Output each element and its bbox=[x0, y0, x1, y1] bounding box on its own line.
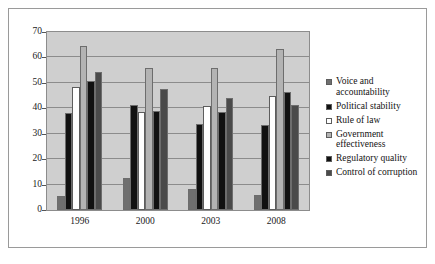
chart-legend: Voice and accountabilityPolitical stabil… bbox=[326, 76, 435, 181]
bar bbox=[65, 113, 72, 210]
y-axis-tick-mark bbox=[42, 32, 46, 33]
bar bbox=[261, 125, 268, 210]
legend-label: Government effectiveness bbox=[336, 129, 385, 150]
bar bbox=[57, 196, 64, 210]
bar bbox=[196, 124, 203, 210]
bar bbox=[276, 49, 283, 210]
bar-group bbox=[123, 32, 168, 210]
x-axis-tick-label: 2000 bbox=[123, 216, 167, 226]
y-axis-tick-label: 70 bbox=[16, 27, 42, 37]
bar bbox=[145, 68, 152, 210]
x-axis-tick-label: 2008 bbox=[254, 216, 298, 226]
bar-group bbox=[57, 32, 102, 210]
y-axis-tick-mark bbox=[42, 159, 46, 160]
legend-swatch-icon bbox=[326, 156, 332, 162]
bar bbox=[291, 105, 298, 210]
legend-item[interactable]: Control of corruption bbox=[326, 167, 435, 178]
legend-label: Control of corruption bbox=[336, 167, 417, 178]
y-axis-tick-label: 40 bbox=[16, 104, 42, 114]
legend-item[interactable]: Regulatory quality bbox=[326, 153, 435, 164]
bar bbox=[188, 189, 195, 210]
legend-swatch-icon bbox=[326, 118, 332, 124]
y-axis-tick-mark bbox=[42, 57, 46, 58]
bar bbox=[138, 112, 145, 210]
y-axis-tick-label: 10 bbox=[16, 180, 42, 190]
bar bbox=[284, 92, 291, 210]
bar bbox=[72, 87, 79, 210]
chart-page: 010203040506070 1996200020032008 Voice a… bbox=[0, 0, 435, 264]
bar bbox=[160, 89, 167, 210]
x-axis-tick-label: 1996 bbox=[58, 216, 102, 226]
legend-swatch-icon bbox=[326, 170, 332, 176]
legend-label: Political stability bbox=[336, 101, 401, 112]
legend-swatch-icon bbox=[326, 79, 332, 85]
bar bbox=[95, 72, 102, 210]
legend-item[interactable]: Voice and accountability bbox=[326, 76, 435, 97]
legend-item[interactable]: Government effectiveness bbox=[326, 129, 435, 150]
bar bbox=[218, 112, 225, 210]
y-axis-tick-label: 30 bbox=[16, 129, 42, 139]
y-axis-tick-mark bbox=[42, 134, 46, 135]
y-axis-tick-label: 50 bbox=[16, 78, 42, 88]
x-axis-tick-label: 2003 bbox=[189, 216, 233, 226]
bar-series-container bbox=[47, 32, 309, 210]
legend-label: Rule of law bbox=[336, 115, 380, 126]
y-axis-tick-mark bbox=[42, 185, 46, 186]
bar bbox=[211, 68, 218, 210]
bar bbox=[203, 106, 210, 210]
bar bbox=[254, 195, 261, 210]
bar bbox=[130, 105, 137, 210]
bar-chart: 010203040506070 1996200020032008 Voice a… bbox=[14, 14, 420, 241]
y-axis-tick-label: 60 bbox=[16, 53, 42, 63]
legend-label: Regulatory quality bbox=[336, 153, 407, 164]
y-axis-tick-mark bbox=[42, 83, 46, 84]
bar bbox=[123, 178, 130, 210]
bar bbox=[226, 98, 233, 210]
bar bbox=[153, 111, 160, 210]
y-axis-tick-mark bbox=[42, 210, 46, 211]
y-axis-tick-label: 0 bbox=[16, 205, 42, 215]
bar bbox=[87, 81, 94, 210]
legend-swatch-icon bbox=[326, 132, 332, 138]
y-axis-tick-label: 20 bbox=[16, 154, 42, 164]
bar bbox=[80, 46, 87, 210]
bar-group bbox=[188, 32, 233, 210]
legend-label: Voice and accountability bbox=[336, 76, 390, 97]
bar bbox=[269, 96, 276, 210]
legend-item[interactable]: Rule of law bbox=[326, 115, 435, 126]
y-axis-tick-mark bbox=[42, 108, 46, 109]
legend-swatch-icon bbox=[326, 104, 332, 110]
bar-group bbox=[254, 32, 299, 210]
legend-item[interactable]: Political stability bbox=[326, 101, 435, 112]
